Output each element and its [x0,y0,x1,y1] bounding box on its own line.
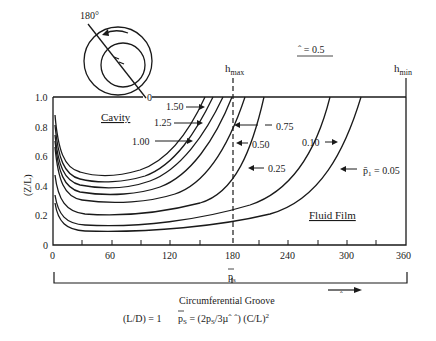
ld-ratio-label: (L/D) = 1 [123,313,161,325]
svg-text:0.25: 0.25 [268,163,286,174]
svg-text:0: 0 [43,240,48,251]
svg-text:0.75: 0.75 [276,121,294,132]
svg-text:ˆ: ˆ [340,291,343,300]
hmax-label: hmax [225,62,244,77]
svg-text:p̄1 = 0.05: p̄1 = 0.05 [363,165,400,178]
svg-text:1.25: 1.25 [154,117,172,128]
svg-text:0.10: 0.10 [302,137,320,148]
x-axis [82,240,376,245]
cavity-label: Cavity [101,111,131,123]
svg-text:1.00: 1.00 [132,136,150,147]
curve-0-50 [55,97,245,202]
svg-text:180: 180 [225,250,240,261]
svg-text:0.6: 0.6 [35,151,48,162]
svg-text:360: 360 [396,250,411,261]
svg-text:1.0: 1.0 [35,92,48,103]
formula-label: pS = (2pS/3µˆ ˆ) (C/L)2 [178,312,270,326]
groove-label: Circumferential Groove [179,295,275,306]
angle-0-label: 0 [147,92,152,103]
svg-text:0.2: 0.2 [35,210,48,221]
svg-text:0.8: 0.8 [35,122,48,133]
svg-text:0: 0 [50,250,55,261]
svg-text:0.50: 0.50 [252,139,270,150]
hmin-label: hmin [394,62,412,77]
svg-text:120: 120 [162,250,177,261]
svg-text:300: 300 [339,250,354,261]
y-axis-label: (Z/L) [22,174,34,196]
y-axis: 1.0 0.8 0.6 0.4 0.2 0 (Z/L) [22,92,48,251]
svg-text:60: 60 [105,250,115,261]
fluid-film-label: Fluid Film [309,209,356,221]
bearing-inset-diagram [84,24,152,98]
angle-180-label: 180° [80,10,99,21]
svg-text:0.4: 0.4 [35,181,48,192]
journal-bearing-chart: 180° 0 ˆ = 0.5 hmax hmin 1.0 0.8 0.6 0.4… [0,0,436,341]
eccentricity-label: ˆ = 0.5 [298,44,324,55]
svg-text:1.50: 1.50 [166,101,184,112]
svg-text:240: 240 [280,250,295,261]
curve-labels: 1.50 1.25 1.00 0.75 0.50 0.25 0.10 p̄1 =… [132,101,400,178]
